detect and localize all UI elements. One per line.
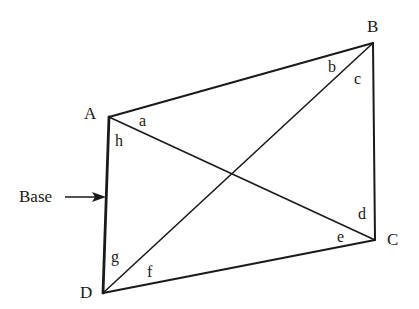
side-bc xyxy=(373,43,375,240)
angle-label-d: d xyxy=(358,205,366,222)
quadrilateral-diagram: A B C D a h b c d e f g Base xyxy=(0,0,419,309)
angle-label-h: h xyxy=(115,132,123,149)
angle-label-c: c xyxy=(354,70,361,87)
diagonal-ac xyxy=(109,117,375,240)
vertex-label-a: A xyxy=(84,104,97,123)
side-cd xyxy=(103,240,375,293)
angle-label-g: g xyxy=(111,248,119,266)
vertex-label-c: C xyxy=(387,230,398,249)
side-da-base xyxy=(103,117,109,293)
base-label: Base xyxy=(19,187,52,206)
angle-label-f: f xyxy=(147,263,153,280)
angle-label-b: b xyxy=(328,58,336,75)
vertex-label-b: B xyxy=(367,17,378,36)
angle-label-a: a xyxy=(139,112,146,129)
vertex-label-d: D xyxy=(80,283,92,302)
angle-label-e: e xyxy=(337,228,344,245)
